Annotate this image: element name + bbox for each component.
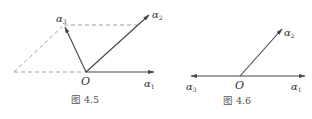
figure-caption: 图 4.6 bbox=[223, 95, 251, 106]
vector-alpha2-arrow bbox=[240, 29, 282, 76]
alpha1-label: α1 bbox=[291, 81, 302, 93]
alpha3-label: α3 bbox=[186, 81, 197, 93]
vector-alpha3-arrow bbox=[65, 27, 86, 72]
alpha2-label: α2 bbox=[284, 27, 295, 39]
origin-label: O bbox=[81, 75, 90, 88]
figure-4-6: O α1 α2 α3 图 4.6 bbox=[186, 27, 305, 106]
alpha1-label: α1 bbox=[144, 78, 155, 90]
figure-caption: 图 4.5 bbox=[71, 94, 99, 105]
alpha2-label: α2 bbox=[152, 9, 163, 21]
figure-4-5: O α1 α2 α3 图 4.5 bbox=[14, 9, 163, 105]
vector-alpha2-arrow bbox=[86, 15, 149, 72]
vector-diagrams: O α1 α2 α3 图 4.5 O α1 α2 α3 图 4.6 bbox=[0, 0, 312, 119]
alpha3-label: α3 bbox=[56, 13, 67, 25]
origin-label: O bbox=[235, 79, 244, 92]
